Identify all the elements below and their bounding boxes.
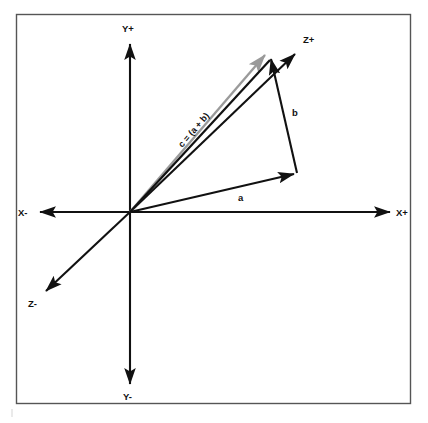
figure-border <box>17 15 411 404</box>
figure-root: Y+ Y- X- X+ Z+ Z- a b c = (a + b) <box>0 0 428 423</box>
vector-label-b: b <box>292 107 298 118</box>
axis-label-z-negative: Z- <box>28 298 37 309</box>
axis-label-x-positive: X+ <box>396 207 408 218</box>
vector-diagram-svg: Y+ Y- X- X+ Z+ Z- a b c = (a + b) <box>0 0 428 423</box>
axis-label-y-negative: Y- <box>123 391 132 402</box>
scan-artifact <box>11 409 13 417</box>
vector-label-a: a <box>238 192 244 203</box>
axis-label-x-negative: X- <box>18 207 28 218</box>
axis-label-z-positive: Z+ <box>303 34 315 45</box>
axis-label-y-positive: Y+ <box>122 23 134 34</box>
